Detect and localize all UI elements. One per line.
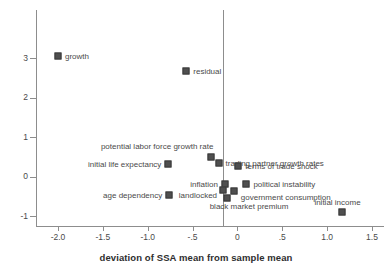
x-tick-mark bbox=[193, 226, 194, 231]
data-point-label: landlocked bbox=[179, 190, 217, 199]
y-axis-line bbox=[36, 10, 37, 226]
data-point-label: inflation bbox=[190, 180, 218, 189]
x-tick-label: 1.5 bbox=[366, 233, 378, 242]
y-tick-mark bbox=[30, 216, 36, 217]
scatter-chart: 3210-1 -2.0-1.5-1.0-.50.51.01.5 growthre… bbox=[0, 0, 392, 275]
x-tick-mark bbox=[237, 226, 238, 231]
y-tick-mark bbox=[30, 137, 36, 138]
y-tick-label: 2 bbox=[23, 93, 28, 102]
data-point-label: initial income bbox=[314, 198, 360, 207]
x-tick-mark bbox=[148, 226, 149, 231]
x-tick-mark bbox=[327, 226, 328, 231]
x-tick-label: -1.5 bbox=[96, 233, 111, 242]
data-point-marker[interactable] bbox=[208, 153, 215, 160]
data-point-marker[interactable] bbox=[55, 53, 62, 60]
data-point-label: terms of trade shock bbox=[245, 161, 317, 170]
data-point-marker[interactable] bbox=[215, 159, 222, 166]
y-tick-label: -1 bbox=[20, 212, 28, 221]
x-tick-label: 0 bbox=[235, 233, 240, 242]
y-tick-label: 1 bbox=[23, 133, 28, 142]
x-tick-mark bbox=[58, 226, 59, 231]
x-tick-label: -2.0 bbox=[51, 233, 66, 242]
x-tick-label: 1.0 bbox=[321, 233, 333, 242]
data-point-marker[interactable] bbox=[243, 180, 250, 187]
zero-reference-line bbox=[223, 10, 224, 226]
data-point-marker[interactable] bbox=[166, 192, 173, 199]
data-point-label: growth bbox=[65, 52, 89, 61]
y-tick-mark bbox=[30, 177, 36, 178]
y-tick-mark bbox=[30, 58, 36, 59]
data-point-marker[interactable] bbox=[230, 187, 237, 194]
y-tick-label: 0 bbox=[23, 172, 28, 181]
data-point-marker[interactable] bbox=[223, 195, 230, 202]
y-tick-label: 3 bbox=[23, 54, 28, 63]
x-axis-line bbox=[36, 226, 384, 227]
data-point-label: age dependency bbox=[103, 191, 162, 200]
x-tick-label: -.5 bbox=[188, 233, 198, 242]
x-tick-mark bbox=[372, 226, 373, 231]
data-point-label: initial life expectancy bbox=[88, 159, 161, 168]
y-tick-mark bbox=[30, 98, 36, 99]
data-point-marker[interactable] bbox=[220, 186, 227, 193]
x-tick-label: -1.0 bbox=[140, 233, 155, 242]
data-point-label: residual bbox=[193, 66, 221, 75]
x-tick-mark bbox=[103, 226, 104, 231]
data-point-label: potential labor force growth rate bbox=[101, 141, 214, 150]
data-point-marker[interactable] bbox=[183, 67, 190, 74]
data-point-marker[interactable] bbox=[339, 209, 346, 216]
x-axis-title: deviation of SSA mean from sample mean bbox=[0, 252, 392, 263]
x-tick-label: .5 bbox=[279, 233, 286, 242]
data-point-label: black market premium bbox=[210, 202, 289, 211]
data-point-marker[interactable] bbox=[235, 162, 242, 169]
data-point-label: political instability bbox=[253, 179, 315, 188]
x-tick-mark bbox=[282, 226, 283, 231]
data-point-marker[interactable] bbox=[165, 160, 172, 167]
